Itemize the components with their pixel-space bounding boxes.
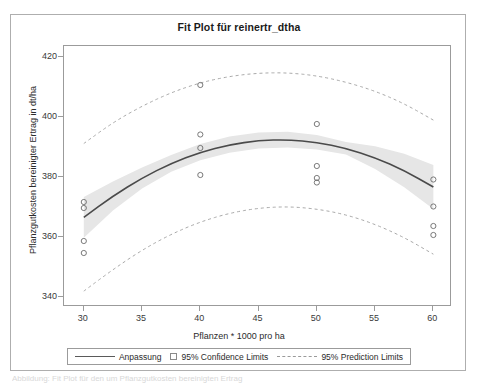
data-point-marker (314, 163, 319, 168)
x-tick-label: 45 (242, 313, 274, 323)
solid-line-icon (75, 356, 115, 357)
x-tick-mark (141, 306, 142, 311)
x-tick-mark (258, 306, 259, 311)
confidence-band (84, 132, 434, 238)
y-tick-label: 420 (25, 51, 57, 61)
graph-frame: Fit Plot für reinertr_dtha Pflanzgutkost… (10, 14, 466, 371)
data-point-marker (198, 172, 203, 177)
figure-root: Fit Plot für reinertr_dtha Pflanzgutkost… (0, 0, 478, 384)
legend-label-prediction: 95% Prediction Limits (321, 352, 403, 362)
y-tick-label: 380 (25, 171, 57, 181)
legend-item-prediction[interactable]: 95% Prediction Limits (277, 352, 403, 362)
data-point-marker (314, 121, 319, 126)
x-tick-mark (374, 306, 375, 311)
chart-legend: Anpassung 95% Confidence Limits 95% Pred… (67, 348, 411, 365)
figure-caption: Abbildung: Fit Plot für den um Pflanzgut… (12, 374, 472, 383)
data-point-marker (198, 82, 203, 87)
page-title: Fit Plot für reinertr_dtha (11, 21, 467, 33)
data-point-marker (431, 223, 436, 228)
data-point-marker (81, 238, 86, 243)
data-point-marker (431, 232, 436, 237)
x-tick-label: 35 (125, 313, 157, 323)
x-tick-mark (199, 306, 200, 311)
dashed-line-icon (277, 356, 317, 357)
data-point-marker (198, 132, 203, 137)
prediction-limit-lower (84, 207, 434, 291)
x-axis-title: Pflanzen * 1000 pro ha (11, 331, 467, 341)
legend-item-fit[interactable]: Anpassung (75, 352, 162, 362)
legend-item-confidence[interactable]: 95% Confidence Limits (170, 352, 268, 362)
legend-label-fit: Anpassung (119, 352, 162, 362)
plot-canvas (64, 46, 451, 306)
data-point-marker (81, 250, 86, 255)
x-tick-label: 30 (67, 313, 99, 323)
x-tick-mark (316, 306, 317, 311)
x-tick-label: 50 (300, 313, 332, 323)
legend-label-confidence: 95% Confidence Limits (181, 352, 268, 362)
x-tick-label: 60 (416, 313, 448, 323)
x-tick-label: 40 (183, 313, 215, 323)
plot-area (63, 45, 451, 306)
square-swatch-icon (170, 353, 177, 360)
x-tick-mark (432, 306, 433, 311)
y-tick-label: 400 (25, 111, 57, 121)
y-tick-label: 360 (25, 231, 57, 241)
x-tick-label: 55 (358, 313, 390, 323)
x-tick-mark (83, 306, 84, 311)
y-tick-label: 340 (25, 291, 57, 301)
